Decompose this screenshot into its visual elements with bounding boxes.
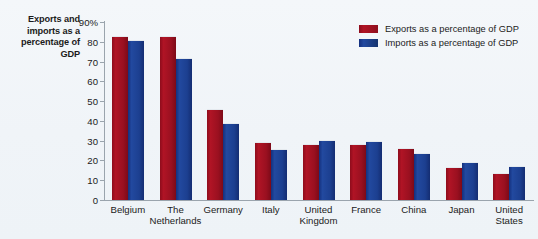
y-tick-mark [100,81,104,82]
bar-imports [128,40,144,200]
y-tick-mark [100,22,104,23]
y-tick-label: 40 [87,115,98,126]
bar-group [112,22,144,200]
bar-exports [207,109,223,200]
bar-imports [176,58,192,200]
y-tick-label: 90% [79,17,98,28]
bar-group [207,22,239,200]
y-tick-mark [100,160,104,161]
x-axis-line [104,200,534,201]
bar-exports [350,144,366,200]
bar-imports [223,123,239,200]
y-tick-label: 70 [87,56,98,67]
bar-exports [303,144,319,200]
y-tick-label: 30 [87,135,98,146]
y-tick-mark [100,101,104,102]
bar-imports [414,153,430,200]
bar-imports [271,149,287,200]
y-tick-mark [100,141,104,142]
y-axis-title: Exports and imports as a percentage of G… [2,14,80,60]
y-tick-mark [100,121,104,122]
bar-imports [366,141,382,200]
y-tick-label: 20 [87,155,98,166]
legend-swatch-exports [359,25,378,33]
bar-exports [446,167,462,200]
y-tick-mark [100,62,104,63]
y-tick-label: 10 [87,175,98,186]
legend-item-exports: Exports as a percentage of GDP [359,22,519,36]
y-tick-mark [100,180,104,181]
bar-exports [255,142,271,200]
bar-exports [493,173,509,200]
bar-group [160,22,192,200]
y-tick-label: 50 [87,96,98,107]
bar-exports [112,36,128,200]
y-tick-mark [100,42,104,43]
chart-figure: Exports and imports as a percentage of G… [0,0,538,239]
legend-label-exports: Exports as a percentage of GDP [385,24,519,34]
bar-group [255,22,287,200]
legend-label-imports: Imports as a percentage of GDP [385,38,518,48]
legend-swatch-imports [359,39,378,47]
y-tick-mark [100,200,104,201]
bar-exports [160,36,176,200]
bar-imports [462,162,478,200]
chart-legend: Exports as a percentage of GDP Imports a… [359,22,519,50]
bar-exports [398,148,414,200]
bar-imports [509,166,525,200]
y-tick-label: 80 [87,36,98,47]
bar-group [303,22,335,200]
bar-imports [319,140,335,200]
legend-item-imports: Imports as a percentage of GDP [359,36,519,50]
x-axis-category-label: United States [479,204,538,227]
y-tick-label: 60 [87,76,98,87]
